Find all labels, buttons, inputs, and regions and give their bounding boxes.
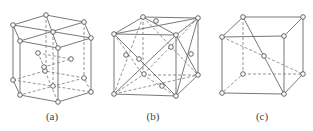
panel-a-hcp-diagram: [11, 13, 94, 105]
panel-b-fcc-diagram: [112, 15, 201, 99]
panel-a-label: (a): [46, 110, 58, 122]
panel-c-bcc-diagram: [220, 15, 306, 97]
panel-b-label: (b): [147, 110, 160, 122]
panel-c-label: (c): [256, 110, 268, 122]
